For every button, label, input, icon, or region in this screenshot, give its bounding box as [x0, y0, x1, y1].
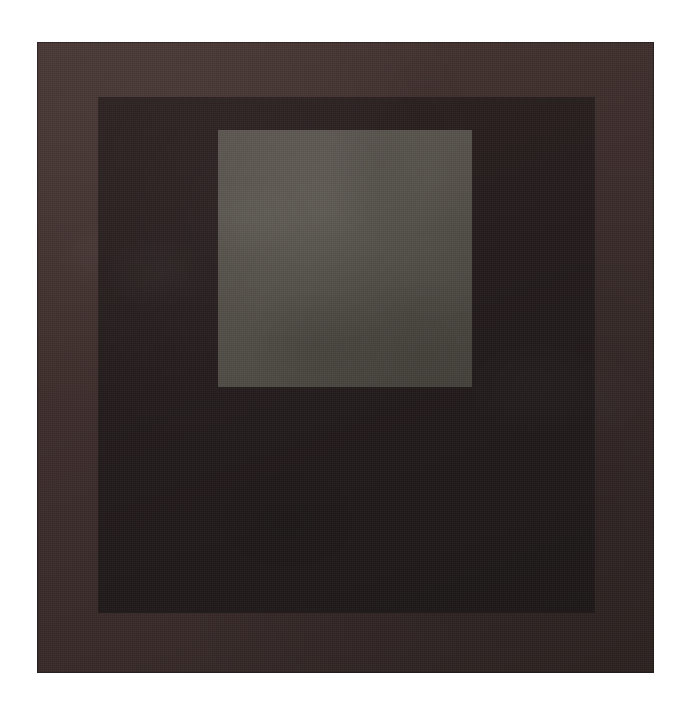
outer-band-label: [37, 42, 38, 43]
artwork-canvas: [0, 0, 688, 708]
inner-square: [218, 130, 472, 387]
inner-square-weave-texture: [218, 130, 472, 387]
inner-square-mottle-texture: [218, 130, 472, 387]
